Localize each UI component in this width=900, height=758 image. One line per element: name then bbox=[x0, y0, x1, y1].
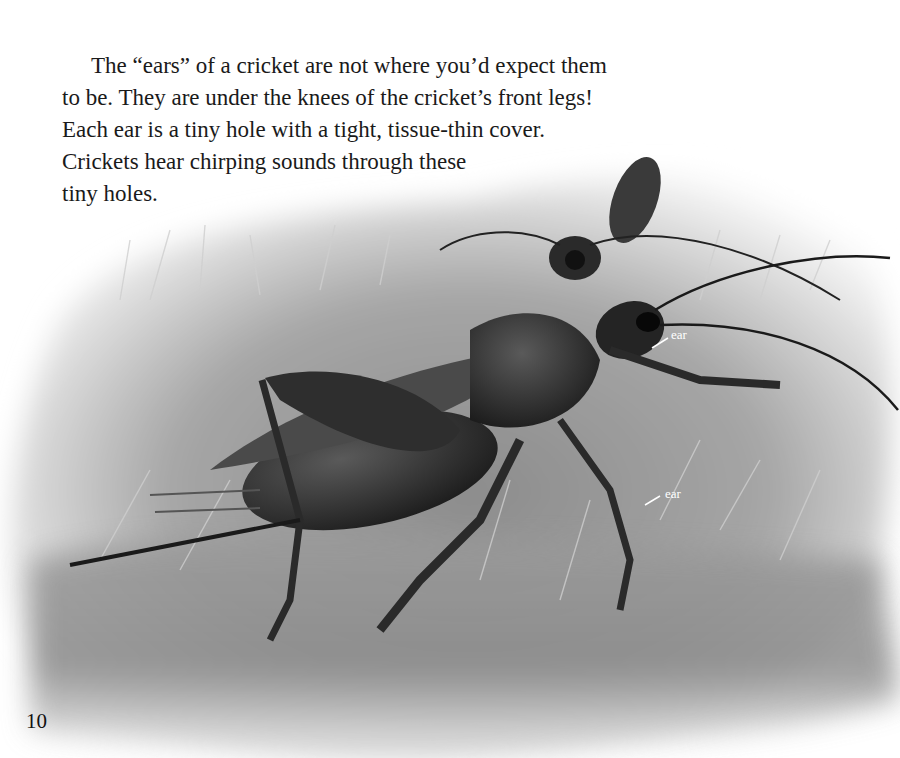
ear-label-upper: ear bbox=[671, 327, 687, 343]
paragraph-line: Each ear is a tiny hole with a tight, ti… bbox=[62, 114, 702, 146]
paragraph-line: The “ears” of a cricket are not where yo… bbox=[62, 50, 702, 82]
paragraph-line: Crickets hear chirping sounds through th… bbox=[62, 146, 702, 178]
page-number: 10 bbox=[26, 709, 47, 734]
body-paragraph: The “ears” of a cricket are not where yo… bbox=[62, 50, 702, 210]
paragraph-line: to be. They are under the knees of the c… bbox=[62, 82, 702, 114]
book-page: The “ears” of a cricket are not where yo… bbox=[0, 0, 900, 758]
paragraph-line: tiny holes. bbox=[62, 178, 702, 210]
ear-label-lower: ear bbox=[665, 486, 681, 502]
